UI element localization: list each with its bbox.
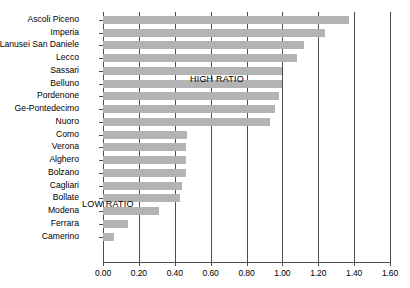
category-label: Alghero bbox=[49, 155, 79, 164]
bar bbox=[103, 131, 187, 139]
bar-row bbox=[103, 154, 390, 167]
category-label: Ferrara bbox=[51, 219, 79, 228]
x-tick-mark bbox=[318, 262, 319, 266]
y-tick-mark bbox=[99, 109, 103, 110]
bar-row bbox=[103, 39, 390, 52]
y-tick-mark bbox=[99, 58, 103, 59]
y-tick-mark bbox=[99, 211, 103, 212]
bar bbox=[103, 220, 128, 228]
y-tick-mark bbox=[99, 186, 103, 187]
x-tick-label: 1.20 bbox=[298, 268, 338, 278]
category-label: Lanusei San Daniele bbox=[0, 40, 79, 49]
bar bbox=[103, 182, 182, 190]
x-tick-label: 0.00 bbox=[83, 268, 123, 278]
y-tick-mark bbox=[99, 237, 103, 238]
category-label: Nuoro bbox=[56, 117, 79, 126]
category-label: Bollate bbox=[53, 193, 79, 202]
y-tick-mark bbox=[99, 96, 103, 97]
y-tick-mark bbox=[99, 160, 103, 161]
bar-chart: 0.000.200.400.600.801.001.201.401.60 Asc… bbox=[0, 0, 410, 288]
y-tick-mark bbox=[99, 33, 103, 34]
bar bbox=[103, 156, 186, 164]
bar bbox=[103, 143, 186, 151]
bar bbox=[103, 233, 114, 241]
bar-row bbox=[103, 129, 390, 142]
bar bbox=[103, 41, 304, 49]
x-tick-mark bbox=[103, 262, 104, 266]
x-tick-label: 1.60 bbox=[370, 268, 410, 278]
bar bbox=[103, 29, 325, 37]
bar bbox=[103, 16, 349, 24]
bar-row bbox=[103, 14, 390, 27]
x-tick-label: 0.80 bbox=[227, 268, 267, 278]
y-tick-mark bbox=[99, 147, 103, 148]
x-tick-mark bbox=[175, 262, 176, 266]
bar-row bbox=[103, 52, 390, 65]
bar bbox=[103, 92, 279, 100]
y-tick-mark bbox=[99, 224, 103, 225]
bar-row bbox=[103, 116, 390, 129]
bar-row bbox=[103, 78, 390, 91]
bar-row bbox=[103, 90, 390, 103]
category-label: Ascoli Piceno bbox=[27, 15, 79, 24]
x-tick-mark bbox=[139, 262, 140, 266]
bar-row bbox=[103, 218, 390, 231]
category-label: Belluno bbox=[50, 79, 79, 88]
bar-row bbox=[103, 205, 390, 218]
bar-row bbox=[103, 231, 390, 244]
category-label: Bolzano bbox=[48, 168, 79, 177]
annotation-low-ratio: LOW RATIO bbox=[82, 199, 134, 209]
category-label: Modena bbox=[48, 206, 79, 215]
category-label: Imperia bbox=[50, 28, 79, 37]
bar-row bbox=[103, 167, 390, 180]
category-label: Sassari bbox=[50, 66, 79, 75]
category-label: Cagliari bbox=[50, 181, 79, 190]
y-tick-mark bbox=[99, 84, 103, 85]
y-tick-mark bbox=[99, 71, 103, 72]
x-tick-label: 0.20 bbox=[119, 268, 159, 278]
y-tick-mark bbox=[99, 122, 103, 123]
bar bbox=[103, 54, 297, 62]
x-tick-label: 1.40 bbox=[334, 268, 374, 278]
category-label: Camerino bbox=[42, 232, 79, 241]
category-label: Pordenone bbox=[37, 91, 79, 100]
y-tick-mark bbox=[99, 135, 103, 136]
category-label: Lecco bbox=[56, 53, 79, 62]
x-tick-mark bbox=[211, 262, 212, 266]
bar bbox=[103, 169, 186, 177]
x-tick-mark bbox=[247, 262, 248, 266]
plot-area: 0.000.200.400.600.801.001.201.401.60 Asc… bbox=[103, 12, 390, 262]
bar bbox=[103, 105, 275, 113]
annotation-high-ratio: HIGH RATIO bbox=[190, 74, 244, 84]
y-tick-mark bbox=[99, 45, 103, 46]
bar-row bbox=[103, 103, 390, 116]
bar bbox=[103, 118, 270, 126]
x-tick-mark bbox=[390, 262, 391, 266]
x-tick-label: 0.60 bbox=[191, 268, 231, 278]
bar-row bbox=[103, 27, 390, 40]
bar-row bbox=[103, 180, 390, 193]
y-tick-mark bbox=[99, 173, 103, 174]
category-label: Verona bbox=[52, 142, 79, 151]
bar-row bbox=[103, 65, 390, 78]
category-label: Como bbox=[56, 130, 79, 139]
y-tick-mark bbox=[99, 20, 103, 21]
x-tick-mark bbox=[282, 262, 283, 266]
bar-row bbox=[103, 141, 390, 154]
x-tick-label: 0.40 bbox=[155, 268, 195, 278]
gridline bbox=[390, 12, 391, 262]
x-tick-label: 1.00 bbox=[262, 268, 302, 278]
category-label: Ge-Pontedecimo bbox=[15, 104, 80, 113]
bar-row bbox=[103, 192, 390, 205]
x-tick-mark bbox=[354, 262, 355, 266]
